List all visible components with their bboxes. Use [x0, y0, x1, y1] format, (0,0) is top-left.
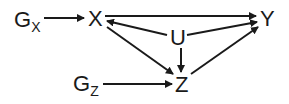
node-gx: GX — [14, 7, 41, 35]
node-u: U — [170, 25, 186, 50]
node-z: Z — [175, 72, 188, 97]
node-gz-label: G — [73, 71, 90, 96]
node-gx-label: G — [14, 7, 31, 32]
node-gx-subscript: X — [31, 19, 41, 35]
causal-diagram: GX X Y U Z GZ — [0, 0, 289, 104]
edge-u-to-y — [187, 22, 257, 35]
edge-z-to-y — [191, 27, 258, 74]
node-y: Y — [260, 6, 275, 31]
node-gz: GZ — [73, 71, 99, 99]
node-gz-subscript: Z — [90, 83, 99, 99]
node-x: X — [88, 6, 103, 31]
